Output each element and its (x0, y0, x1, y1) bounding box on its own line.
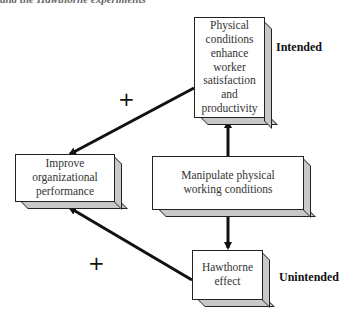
box-right-face (114, 156, 122, 210)
box-bottom-face (20, 201, 128, 209)
label-intended: Intended (276, 40, 322, 55)
plus-sign-lower: + (88, 253, 105, 273)
box-hawthorne: Hawthorne effect (192, 250, 263, 300)
box-improve-performance: Improve organizational performance (15, 154, 115, 202)
box-right-face (264, 21, 272, 129)
box-right-face (303, 158, 311, 218)
box-physical-conditions-text: Physical conditions enhance worker satis… (198, 19, 261, 116)
box-right-face (262, 252, 270, 308)
plus-sign-upper: + (118, 89, 135, 109)
box-manipulate-text: Manipulate physical working conditions (173, 169, 283, 197)
box-hawthorne-text: Hawthorne effect (201, 261, 254, 289)
box-manipulate: Manipulate physical working conditions (152, 156, 304, 210)
label-unintended: Unintended (279, 270, 339, 285)
box-improve-performance-text: Improve organizational performance (16, 157, 114, 198)
box-physical-conditions: Physical conditions enhance worker satis… (194, 17, 265, 118)
box-bottom-face (158, 209, 316, 217)
